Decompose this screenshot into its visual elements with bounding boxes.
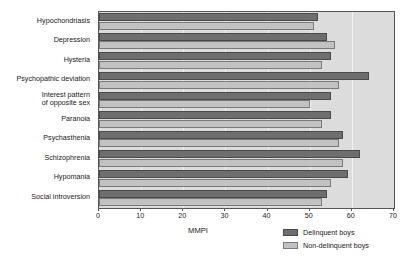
legend-swatch-dark <box>283 229 298 236</box>
bar <box>99 61 322 69</box>
bar <box>99 13 318 21</box>
x-tick-label: 40 <box>252 211 282 220</box>
bar <box>99 120 322 128</box>
x-tick-label: 60 <box>336 211 366 220</box>
bar <box>99 150 360 158</box>
plot-area <box>98 11 395 209</box>
legend-item: Non-delinquent boys <box>283 239 403 252</box>
x-tick-label: 20 <box>167 211 197 220</box>
bar <box>99 72 369 80</box>
category-label: Hysteria <box>0 56 90 64</box>
x-tick-label: 50 <box>294 211 324 220</box>
bar <box>99 131 343 139</box>
bar <box>99 170 348 178</box>
category-label: Interest pattern of opposite sex <box>0 91 90 108</box>
x-tick-label: 30 <box>209 211 239 220</box>
bar <box>99 100 310 108</box>
category-label: Hypochondriasis <box>0 17 90 25</box>
x-tick-label: 10 <box>125 211 155 220</box>
bar <box>99 198 322 206</box>
bar-series-group <box>99 12 394 208</box>
bar <box>99 22 314 30</box>
legend-label: Delinquent boys <box>303 228 355 237</box>
category-axis-labels: HypochondriasisDepressionHysteriaPsychop… <box>0 11 93 207</box>
x-tick-label: 0 <box>83 211 113 220</box>
bar <box>99 41 335 49</box>
bar <box>99 190 327 198</box>
bar <box>99 81 339 89</box>
legend-item: Delinquent boys <box>283 226 403 239</box>
bar <box>99 179 331 187</box>
bar <box>99 111 331 119</box>
category-label: Paranoia <box>0 115 90 123</box>
category-label: Psychasthenia <box>0 134 90 142</box>
category-label: Psychopathic deviation <box>0 75 90 83</box>
bar <box>99 159 343 167</box>
category-label: Hypomania <box>0 173 90 181</box>
legend-swatch-light <box>283 242 298 249</box>
chart-legend: Delinquent boysNon-delinquent boys <box>283 226 403 252</box>
category-label: Social introversion <box>0 193 90 201</box>
x-axis-title: MMPI <box>158 226 238 235</box>
legend-label: Non-delinquent boys <box>303 241 369 250</box>
category-label: Depression <box>0 36 90 44</box>
x-tick-label: 70 <box>378 211 406 220</box>
bar <box>99 33 327 41</box>
bar <box>99 92 331 100</box>
bar <box>99 139 339 147</box>
bar <box>99 52 331 60</box>
mmpi-bar-chart-figure: HypochondriasisDepressionHysteriaPsychop… <box>0 0 406 256</box>
x-axis-tick-labels: 010203040506070 <box>0 211 406 223</box>
category-label: Schizophrenia <box>0 154 90 162</box>
